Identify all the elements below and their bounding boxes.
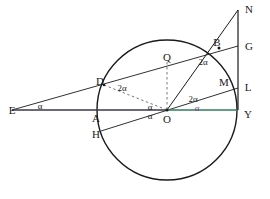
point-dot-O <box>166 109 169 112</box>
line-D-to-O <box>104 85 167 110</box>
point-label-A: A <box>92 113 100 124</box>
angle-label-alpha-at-E: α <box>38 102 43 111</box>
point-label-E: E <box>9 105 16 116</box>
point-label-N: N <box>245 4 253 15</box>
angle-label-twoalpha-at-D: 2α <box>117 84 126 93</box>
point-label-M: M <box>219 77 229 88</box>
point-label-L: L <box>245 82 252 93</box>
angle-label-alpha-at-O-left: α <box>148 112 153 121</box>
angle-label-alpha-at-O-right: α <box>195 104 200 113</box>
point-label-G: G <box>245 41 253 52</box>
point-label-Q: Q <box>163 52 171 63</box>
point-label-D: D <box>96 76 104 87</box>
diagram-canvas: E D Q B N G M L Y O A H α 2α 2α 2α α α α <box>0 0 270 199</box>
geometry-figure <box>0 0 270 199</box>
point-label-Y: Y <box>244 109 252 120</box>
point-label-B: B <box>213 37 220 48</box>
point-label-O: O <box>163 114 171 125</box>
angle-label-twoalpha-at-B: 2α <box>198 58 207 67</box>
point-label-H: H <box>92 129 100 140</box>
